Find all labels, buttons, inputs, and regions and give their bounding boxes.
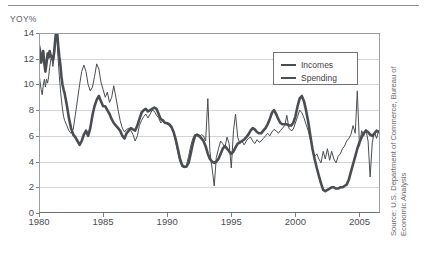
legend-box: Incomes Spending	[273, 52, 358, 85]
y-tick-mark	[36, 187, 39, 188]
legend-swatch-incomes	[281, 64, 296, 67]
legend-label-spending: Spending	[301, 73, 337, 83]
y-tick-mark	[36, 136, 39, 137]
x-tick-label: 1980	[28, 216, 49, 227]
y-axis-tick-labels: 02468101214	[16, 33, 34, 213]
legend-label-incomes: Incomes	[301, 60, 333, 70]
x-tick-label: 1995	[221, 216, 242, 227]
y-tick-label: 10	[23, 78, 34, 89]
figure-container: YOY% 02468101214 19801985199019952000200…	[0, 0, 427, 254]
y-axis-unit-caption: YOY%	[10, 14, 37, 24]
y-tick-mark	[36, 84, 39, 85]
y-tick-mark	[36, 33, 39, 34]
x-tick-label: 2005	[349, 216, 370, 227]
y-tick-label: 6	[29, 130, 34, 141]
y-tick-label: 2	[29, 181, 34, 192]
y-tick-mark	[36, 213, 39, 214]
y-tick-label: 14	[23, 27, 34, 38]
x-tick-label: 2000	[285, 216, 306, 227]
legend-swatch-spending	[281, 77, 296, 78]
y-tick-mark	[36, 59, 39, 60]
y-tick-mark	[36, 110, 39, 111]
y-tick-label: 4	[29, 156, 34, 167]
legend-item-incomes: Incomes	[281, 59, 333, 71]
y-tick-mark	[36, 162, 39, 163]
source-attribution-note: Source: U.S. Department of Commerce, Bur…	[389, 66, 409, 236]
x-tick-label: 1985	[93, 216, 114, 227]
legend-item-spending: Spending	[281, 72, 337, 84]
y-tick-label: 12	[23, 53, 34, 64]
x-tick-label: 1990	[157, 216, 178, 227]
y-tick-label: 8	[29, 104, 34, 115]
